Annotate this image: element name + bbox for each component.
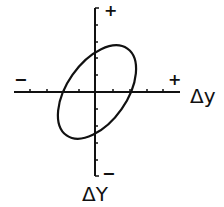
y-positive-sign: + bbox=[104, 3, 117, 19]
y-axis-label: ΔY bbox=[82, 184, 108, 204]
x-axis-label: Δy bbox=[190, 86, 216, 106]
x-positive-sign: + bbox=[168, 72, 181, 88]
y-negative-sign: − bbox=[102, 166, 115, 182]
diagram-canvas: − + Δy + − ΔY bbox=[0, 0, 224, 207]
x-negative-sign: − bbox=[14, 72, 27, 88]
